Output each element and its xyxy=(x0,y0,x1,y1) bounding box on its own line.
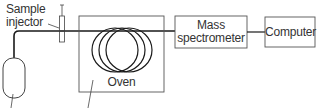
gas-cylinder-icon xyxy=(3,58,25,98)
sample-injector-icon xyxy=(60,16,65,42)
mass-spectrometer-label: Mass spectrometer xyxy=(175,19,247,45)
computer-label: Computer xyxy=(265,26,315,39)
injector-leader-line xyxy=(48,24,59,28)
sample-injector-label: Sample injector xyxy=(6,3,46,29)
diagram-graphics xyxy=(0,0,319,108)
mass-spectrometer-label-line2: spectrometer xyxy=(175,32,247,45)
sample-injector-label-line2: injector xyxy=(6,16,46,29)
oven-label: Oven xyxy=(79,76,164,89)
gcms-diagram: Sample injector Oven Mass spectrometer C… xyxy=(0,0,319,108)
